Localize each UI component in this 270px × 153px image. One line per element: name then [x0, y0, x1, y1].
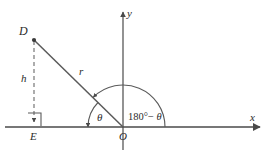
- label-height-h: h: [21, 73, 27, 84]
- label-radius-r: r: [79, 66, 83, 77]
- segment-r-od: [34, 40, 123, 127]
- label-axis-x: x: [250, 112, 255, 123]
- label-angle-theta: θ: [97, 112, 102, 123]
- label-point-e: E: [30, 131, 37, 142]
- geometry-figure: D E h r θ O x y 180°− θ: [0, 0, 270, 153]
- label-axis-y: y: [127, 8, 132, 19]
- figure-canvas: [0, 0, 270, 153]
- point-d-dot: [32, 38, 36, 42]
- label-origin-o: O: [119, 131, 127, 142]
- label-point-d: D: [19, 25, 28, 37]
- label-supplement-prefix: 180°−: [128, 111, 157, 122]
- label-supplement-theta: θ: [157, 111, 162, 122]
- label-supplement-angle: 180°− θ: [128, 112, 162, 123]
